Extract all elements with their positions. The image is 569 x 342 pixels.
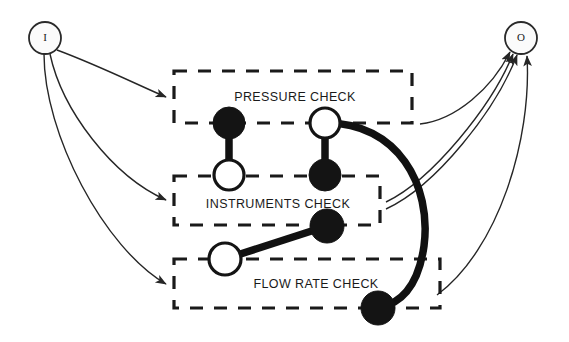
node-open-n6: [209, 243, 241, 275]
pressure-check-label: PRESSURE CHECK: [234, 90, 356, 104]
diagram-canvas: PRESSURE CHECK INSTRUMENTS CHECK FLOW RA…: [0, 0, 569, 342]
node-filled-n4: [309, 159, 341, 191]
node-open-n3: [310, 108, 340, 138]
input-terminal-label: I: [43, 31, 47, 43]
node-group: [209, 107, 395, 325]
node-filled-n1: [213, 107, 245, 139]
node-filled-n7: [361, 291, 395, 325]
flow-rate-check-to-output-edge: [437, 56, 527, 295]
node-filled-n5: [310, 209, 344, 243]
input-to-pressure-check-edge: [57, 50, 166, 97]
flow-rate-check-label: FLOW RATE CHECK: [253, 277, 378, 291]
output-edge-group: [386, 52, 527, 295]
instruments-check-to-output-edge-a: [386, 54, 513, 202]
instruments-check-to-output-edge-b: [386, 55, 517, 209]
process-diagram: PRESSURE CHECK INSTRUMENTS CHECK FLOW RA…: [0, 0, 569, 342]
node-open-n2: [214, 160, 244, 190]
input-to-instruments-check-edge: [50, 54, 166, 200]
instruments-check-label: INSTRUMENTS CHECK: [206, 197, 351, 211]
input-terminal: I: [29, 22, 61, 54]
output-terminal-label: O: [517, 31, 525, 43]
input-edge-group: [44, 50, 166, 284]
output-terminal: O: [505, 22, 537, 54]
